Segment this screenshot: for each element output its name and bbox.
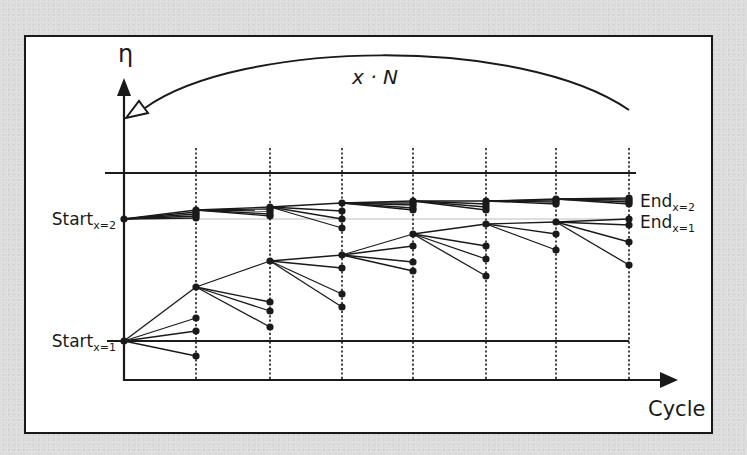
tree-branch (342, 246, 413, 255)
tree-node (338, 251, 345, 258)
tree-node (338, 264, 345, 271)
start-label-x1: Startx=1 (52, 331, 116, 354)
tree-node (338, 303, 345, 310)
tree-node (625, 221, 632, 228)
tree-node (338, 215, 345, 222)
tree-node (625, 238, 632, 245)
tree-node (552, 230, 559, 237)
tree-node (338, 290, 345, 297)
tree-branch (413, 224, 486, 234)
tree-branch (124, 341, 196, 356)
tree-node (266, 307, 273, 314)
tree-branch (486, 224, 556, 234)
tree-branch (342, 255, 413, 271)
loop-label: x · N (351, 65, 398, 89)
tree-node (266, 298, 273, 305)
y-axis-label: η (118, 40, 133, 68)
tree-branch (486, 222, 556, 224)
tree-branch (270, 261, 342, 268)
tree-node (482, 206, 489, 213)
end-label-x2: Endx=2 (640, 191, 695, 214)
tree-node (409, 242, 416, 249)
tree-node (266, 257, 273, 264)
tree-branch (342, 234, 413, 255)
tree-branch (556, 222, 629, 265)
tree-node (266, 212, 273, 219)
tree-node (192, 352, 199, 359)
x-axis-label: Cycle (648, 397, 705, 421)
tree-node (266, 323, 273, 330)
tree-node (409, 230, 416, 237)
tree-node (338, 207, 345, 214)
tree-branch (270, 261, 342, 307)
end-label-x1: Endx=1 (640, 212, 695, 235)
tree-node (338, 199, 345, 206)
tree-node (409, 258, 416, 265)
loop-arrow-icon (126, 101, 148, 118)
tree-node (338, 224, 345, 231)
tree-node (192, 327, 199, 334)
tree-node (120, 215, 127, 222)
tree-branch (196, 287, 270, 302)
tree-node (409, 267, 416, 274)
tree-branch (486, 224, 556, 250)
tree-node (482, 272, 489, 279)
tree-node (409, 206, 416, 213)
start-label-x2: Startx=2 (52, 209, 116, 232)
tree-node (552, 246, 559, 253)
tree-branch (270, 255, 342, 261)
tree-node (552, 218, 559, 225)
tree-node (120, 337, 127, 344)
y-axis-arrow-icon (117, 78, 131, 96)
tree-branch (124, 318, 196, 341)
tree-node (552, 200, 559, 207)
tree-node (625, 200, 632, 207)
tree-branch (270, 203, 342, 207)
tree-node (482, 242, 489, 249)
tree-node (625, 261, 632, 268)
tree-branch (196, 261, 270, 287)
diagram-content: Startx=2Startx=1Endx=2Endx=1 (52, 55, 695, 388)
tree-branch (342, 255, 413, 262)
tree-node (192, 214, 199, 221)
optimization-tree-diagram: η Cycle x · N Startx=2Startx=1Endx=2Endx… (0, 0, 747, 455)
tree-node (482, 220, 489, 227)
tree-node (192, 314, 199, 321)
tree-branch (270, 261, 342, 294)
tree-node (192, 283, 199, 290)
tree-node (482, 255, 489, 262)
x-axis-arrow-icon (660, 372, 678, 388)
